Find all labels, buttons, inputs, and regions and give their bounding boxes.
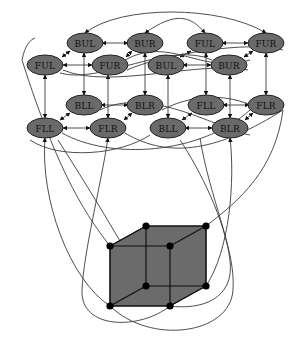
cube-vertex-front-bottom-left	[106, 302, 113, 309]
cube-vertex-front-bottom-right	[166, 302, 173, 309]
edge	[126, 51, 132, 57]
graph-node-fll: FLL	[188, 95, 224, 115]
diagram-canvas: FULBULFURBURFULFURBULBURBLLBLRFLLFLRFLLF…	[0, 0, 299, 343]
graph-node-bur: BUR	[127, 33, 163, 53]
edge	[245, 113, 253, 120]
node-label: BLL	[158, 124, 177, 134]
node-label: FUR	[99, 61, 120, 71]
graph-node-flr: FLR	[90, 118, 126, 138]
edge	[206, 138, 232, 286]
edge	[44, 138, 110, 306]
cube-vertex-back-bottom-right	[202, 282, 209, 289]
node-label: BLR	[220, 124, 240, 134]
node-label: FUR	[255, 39, 276, 49]
edge	[145, 18, 205, 33]
node-label: BUL	[156, 61, 177, 71]
node-label: BUR	[218, 61, 240, 71]
graph-node-bur: BUR	[211, 55, 247, 75]
edge	[124, 113, 132, 120]
cube-figure	[106, 222, 209, 309]
graph-node-bul: BUL	[67, 33, 103, 53]
edge	[125, 110, 283, 148]
node-label: FLR	[256, 101, 276, 111]
cube-vertex-front-top-right	[166, 242, 173, 249]
nodes-layer: FULBULFURBURFULFURBULBURBLLBLRFLLFLRFLLF…	[27, 33, 284, 138]
graph-svg: FULBULFURBURFULFURBULBURBLLBLRFLLFLRFLLF…	[0, 0, 299, 343]
edge	[244, 51, 253, 57]
node-label: BLL	[74, 101, 93, 111]
node-label: FLR	[98, 124, 118, 134]
node-label: FUL	[35, 61, 55, 71]
edge	[62, 51, 70, 57]
node-label: BUL	[75, 39, 96, 49]
graph-node-fur: FUR	[92, 55, 128, 75]
graph-node-fll: FLL	[27, 118, 63, 138]
graph-node-bul: BUL	[148, 55, 184, 75]
graph-node-fur: FUR	[248, 33, 284, 53]
node-label: FLL	[197, 101, 216, 111]
graph-node-bll: BLL	[150, 118, 186, 138]
cube-vertex-back-bottom-left	[142, 282, 149, 289]
graph-node-blr: BLR	[127, 95, 163, 115]
graph-node-ful: FUL	[187, 33, 223, 53]
node-label: BUR	[134, 39, 156, 49]
edge	[60, 113, 70, 120]
node-label: BLR	[135, 101, 155, 111]
cube-vertex-front-top-left	[106, 242, 113, 249]
graph-node-flr: FLR	[248, 95, 284, 115]
graph-node-blr: BLR	[212, 118, 248, 138]
cube-vertex-back-top-right	[202, 222, 209, 229]
edge	[85, 12, 266, 33]
graph-node-ful: FUL	[27, 55, 63, 75]
graph-node-bll: BLL	[66, 95, 102, 115]
node-label: FLL	[36, 124, 55, 134]
cube-vertex-back-top-left	[142, 222, 149, 229]
node-label: FUL	[195, 39, 215, 49]
